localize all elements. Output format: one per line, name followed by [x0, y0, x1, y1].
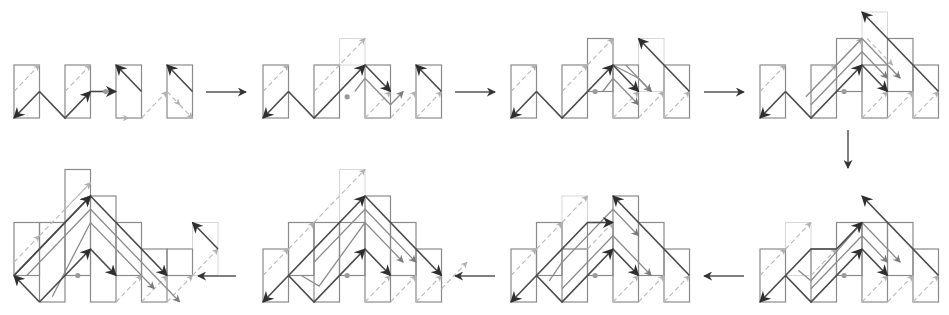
light-arrow-icon: [142, 92, 168, 119]
light-arrow-icon: [180, 105, 193, 118]
light-arrow-icon: [167, 92, 180, 105]
node-dot: [75, 273, 80, 278]
light-arrow-icon: [913, 276, 939, 303]
light-arrow-icon: [511, 249, 537, 276]
light-arrow-icon: [14, 236, 40, 263]
flow-arrows-group: [198, 92, 848, 276]
dark-arrow-icon: [263, 92, 289, 119]
light-arrow-icon: [167, 276, 193, 303]
light-arrow-icon: [760, 65, 786, 92]
mid-arrow-icon: [27, 209, 180, 302]
mid-arrow-icon: [549, 209, 638, 281]
panels-group: [14, 12, 939, 302]
cell-box: [289, 223, 315, 276]
dark-arrow-icon: [289, 196, 366, 276]
light-arrow-icon: [416, 92, 442, 119]
faint-cell: [562, 196, 588, 249]
faint-cell: [862, 12, 888, 65]
cell-box: [562, 65, 588, 118]
faint-cell: [340, 170, 366, 223]
light-arrow-icon: [289, 223, 315, 250]
light-arrow-icon: [511, 65, 537, 92]
cell-box: [416, 65, 442, 118]
cell-box: [263, 65, 289, 118]
dark-arrow-icon: [91, 249, 117, 276]
light-arrow-icon: [365, 92, 391, 119]
light-arrow-icon: [888, 276, 914, 303]
dark-arrow-icon: [416, 65, 442, 92]
light-arrow-icon: [391, 92, 417, 119]
lattice-path-growth-diagram: [0, 0, 949, 315]
cell-box: [913, 249, 939, 302]
dark-arrow-icon: [365, 196, 442, 276]
light-arrow-icon: [14, 65, 40, 92]
mid-arrow-icon: [301, 223, 403, 287]
cell-box: [167, 249, 193, 276]
cell-box: [116, 65, 142, 118]
light-arrow-icon: [613, 92, 639, 119]
dark-arrow-icon: [511, 276, 537, 303]
dark-arrow-icon: [862, 196, 939, 276]
node-dot: [345, 94, 350, 99]
light-arrow-icon: [193, 249, 219, 276]
mid-arrow-icon: [355, 78, 403, 105]
node-dot: [593, 89, 598, 94]
cell-box: [14, 65, 40, 118]
dark-arrow-icon: [511, 92, 537, 119]
dark-arrow-icon: [14, 92, 40, 119]
light-arrow-icon: [862, 92, 888, 119]
dark-arrow-icon: [613, 196, 690, 276]
light-arrow-icon: [588, 223, 614, 250]
dark-arrow-icon: [365, 249, 391, 276]
panel-1: [14, 65, 193, 118]
light-arrow-icon: [786, 223, 812, 250]
dark-arrow-icon: [760, 92, 786, 119]
light-arrow-icon: [416, 276, 442, 303]
dark-arrow-icon: [862, 12, 939, 92]
light-arrow-icon: [263, 65, 289, 92]
light-arrow-icon: [811, 249, 837, 276]
cell-box: [365, 196, 391, 302]
cell-box: [760, 65, 786, 118]
cell-box: [913, 65, 939, 118]
faint-cell: [193, 223, 219, 276]
light-arrow-icon: [65, 65, 91, 92]
light-arrow-icon: [391, 276, 417, 303]
cell-box: [340, 223, 366, 276]
light-arrow-icon: [664, 92, 690, 119]
cell-box: [511, 249, 537, 302]
node-dot: [593, 273, 598, 278]
faint-cell: [786, 223, 812, 276]
panel-2: [263, 39, 442, 119]
light-arrow-icon: [116, 276, 142, 303]
panel-3: [511, 39, 690, 119]
cell-box: [416, 249, 442, 302]
cell-box: [511, 65, 537, 118]
light-arrow-icon: [562, 196, 588, 223]
faint-cell: [639, 39, 665, 92]
cell-box: [664, 65, 690, 118]
cell-box: [888, 223, 914, 276]
dark-arrow-icon: [263, 276, 289, 303]
dark-arrow-icon: [760, 276, 786, 303]
panel-7: [263, 170, 467, 303]
panel-4: [760, 12, 939, 118]
mid-arrow-icon: [613, 65, 651, 92]
cell-box: [639, 223, 665, 276]
node-dot: [842, 89, 847, 94]
cell-box: [65, 65, 91, 118]
dark-arrow-icon: [289, 65, 366, 118]
dark-arrow-icon: [862, 65, 888, 92]
dark-arrow-icon: [193, 223, 219, 250]
diagram-canvas: [0, 0, 949, 315]
cell-box: [664, 249, 690, 302]
light-arrow-icon: [562, 65, 588, 92]
light-arrow-icon: [639, 92, 665, 119]
light-arrow-icon: [888, 92, 914, 119]
dark-arrow-icon: [91, 196, 168, 276]
mid-arrow-icon: [806, 39, 900, 97]
cell-box: [760, 249, 786, 302]
cell-box: [40, 223, 66, 303]
dark-arrow-icon: [167, 65, 193, 92]
dark-arrow-icon: [116, 65, 142, 92]
